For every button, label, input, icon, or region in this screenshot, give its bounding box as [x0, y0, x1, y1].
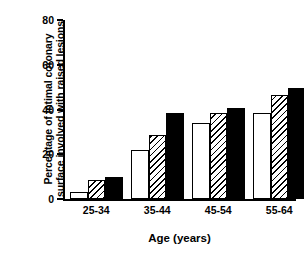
plot-area: [63, 20, 296, 201]
x-axis-tick-labels: 25-3435-4445-5455-64: [63, 204, 296, 220]
x-axis-line: [63, 199, 296, 201]
bar-45-54-hatched: [210, 113, 228, 199]
bar-35-44-hatched: [149, 135, 167, 199]
bar-35-44-open: [131, 150, 149, 199]
x-tick-label-35-44: 35-44: [127, 204, 187, 216]
x-tick-label-45-54: 45-54: [188, 204, 248, 216]
y-tick-label-20: 20: [20, 149, 54, 159]
y-tick-label-60: 60: [20, 60, 54, 70]
y-tick-label-80: 80: [20, 15, 54, 25]
x-tick-label-55-64: 55-64: [249, 204, 304, 216]
bar-55-64-open: [253, 113, 271, 199]
bar-group-45-54: [192, 20, 245, 199]
bar-45-54-open: [192, 123, 210, 199]
bar-group-35-44: [131, 20, 184, 199]
bar-group-55-64: [253, 20, 304, 199]
bar-35-44-solid: [166, 113, 184, 199]
bar-25-34-open: [70, 192, 88, 199]
bar-series-container: [63, 20, 296, 199]
bar-25-34-hatched: [88, 180, 106, 199]
bar-45-54-solid: [227, 108, 245, 199]
bar-chart-figure: Percentage of intimal coronary surface i…: [0, 0, 304, 262]
y-tick-label-0: 0: [20, 194, 54, 204]
x-tick-label-25-34: 25-34: [66, 204, 126, 216]
y-tick-label-40: 40: [20, 105, 54, 115]
bar-25-34-solid: [105, 177, 123, 199]
bar-group-25-34: [70, 20, 123, 199]
bar-55-64-solid: [288, 88, 304, 199]
x-axis-title: Age (years): [63, 232, 296, 244]
bar-55-64-hatched: [271, 95, 289, 199]
